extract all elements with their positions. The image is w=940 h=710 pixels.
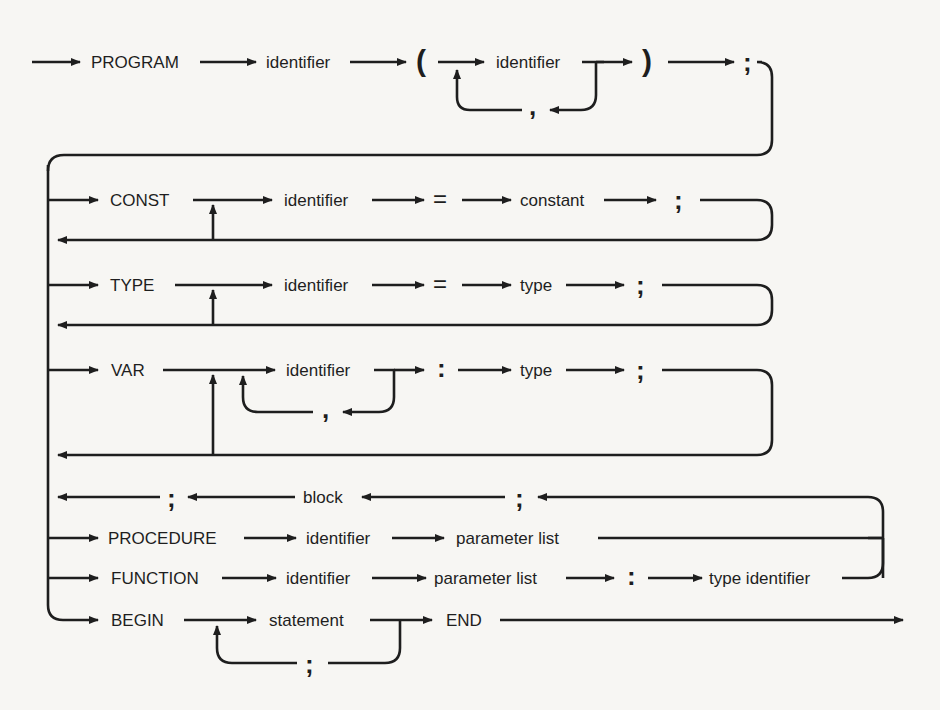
type-equals: =: [433, 272, 447, 296]
program-identifier: identifier: [266, 54, 330, 71]
left-rail: [48, 165, 98, 620]
var-comma: ,: [322, 396, 329, 422]
procedure-parameter-list: parameter list: [456, 530, 559, 547]
var-row-lines: [48, 370, 772, 455]
function-colon: :: [627, 563, 636, 589]
block-semicolon-right: ;: [515, 485, 524, 511]
statement-label: statement: [269, 612, 344, 629]
statement-loop-up: [217, 626, 297, 663]
type-return: [58, 285, 772, 325]
type-identifier: identifier: [284, 277, 348, 294]
procedure-identifier: identifier: [306, 530, 370, 547]
type-row-lines: [48, 285, 772, 325]
function-keyword: FUNCTION: [111, 570, 199, 587]
const-identifier: identifier: [284, 192, 348, 209]
var-identifier: identifier: [286, 362, 350, 379]
statement-semicolon: ;: [305, 651, 314, 677]
const-semicolon: ;: [674, 187, 683, 213]
comma-loop-return: [343, 370, 395, 412]
end-keyword: END: [446, 612, 482, 629]
const-keyword: CONST: [110, 192, 170, 209]
const-equals: =: [433, 187, 447, 211]
const-constant: constant: [520, 192, 584, 209]
open-paren: (: [416, 46, 426, 76]
program-row-lines: [32, 62, 772, 171]
var-semicolon: ;: [636, 357, 645, 383]
var-return: [58, 370, 772, 455]
program-semicolon: ;: [743, 49, 752, 75]
function-parameter-list: parameter list: [434, 570, 537, 587]
block-label: block: [303, 489, 343, 506]
var-type: type: [520, 362, 552, 379]
function-identifier: identifier: [286, 570, 350, 587]
comma-loop-up: [243, 376, 313, 412]
program-param-identifier: identifier: [496, 54, 560, 71]
program-keyword: PROGRAM: [91, 54, 179, 71]
program-connector: [48, 62, 772, 171]
close-paren: ): [642, 46, 652, 76]
type-value: type: [520, 277, 552, 294]
var-colon: :: [437, 355, 446, 381]
function-type-identifier: type identifier: [709, 570, 810, 587]
function-to-rail: [842, 538, 883, 578]
procedure-keyword: PROCEDURE: [108, 530, 217, 547]
diagram-lines: [0, 0, 940, 710]
program-comma: ,: [529, 93, 536, 119]
type-keyword: TYPE: [110, 277, 154, 294]
type-semicolon: ;: [636, 272, 645, 298]
comma-loop-up: [457, 70, 522, 110]
block-semicolon-left: ;: [167, 485, 176, 511]
var-keyword: VAR: [111, 362, 145, 379]
begin-keyword: BEGIN: [111, 612, 164, 629]
syntax-diagram: PROGRAM identifier ( identifier , ) ; CO…: [0, 0, 940, 710]
